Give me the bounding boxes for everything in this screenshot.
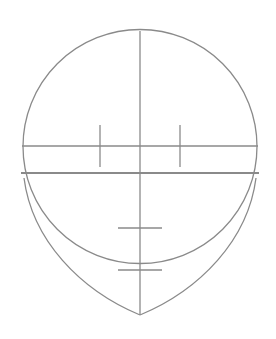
face-construction-diagram [0,0,276,339]
left-jaw-curve [24,178,140,315]
right-jaw-curve [140,178,256,315]
